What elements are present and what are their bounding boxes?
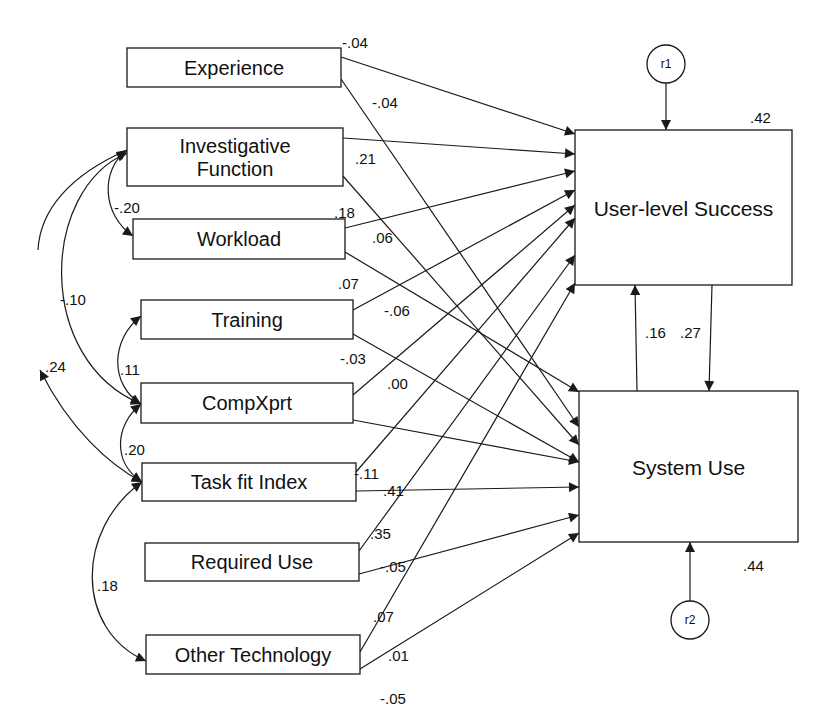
residual-label: r2: [685, 613, 696, 627]
covariance-arrows: [38, 150, 146, 661]
path-arrow: [353, 420, 579, 462]
outcome-label: User-level Success: [594, 197, 774, 220]
variable-label: Function: [197, 158, 274, 180]
path-arrow: [353, 190, 575, 310]
variable-label: CompXprt: [202, 392, 292, 414]
variable-box-othertech: Other Technology: [146, 635, 360, 674]
variable-label: Other Technology: [175, 644, 331, 666]
path-coefficient: -.03: [340, 350, 366, 367]
path-coefficient: .18: [334, 204, 355, 221]
path-arrow: [343, 138, 575, 154]
path-arrow: [356, 218, 575, 472]
path-coefficient: .06: [372, 229, 393, 246]
variable-label: Experience: [184, 57, 284, 79]
path-coefficient: -.05: [380, 690, 406, 707]
covariance-curve: [118, 316, 141, 404]
path-coefficient: .07: [338, 275, 359, 292]
variable-label: Investigative: [179, 135, 290, 157]
covariance-curve: [92, 482, 146, 661]
reciprocal-coefficient: .16: [645, 324, 666, 341]
path-arrow: [360, 283, 575, 652]
variable-box-requireduse: Required Use: [145, 543, 359, 581]
residual-label: r1: [661, 57, 672, 71]
variable-box-workload: Workload: [133, 219, 345, 259]
outcome-box-uls: User-level Success: [575, 130, 792, 285]
path-coefficient: -.04: [372, 94, 398, 111]
path-coefficient: -.11: [354, 465, 379, 482]
path-coefficient: .41: [383, 482, 404, 499]
path-coefficient: -.04: [342, 34, 368, 51]
path-coefficient: -.05: [380, 558, 406, 575]
outcome-label: System Use: [632, 456, 745, 479]
path-coefficient: .35: [370, 525, 391, 542]
path-arrow: [345, 252, 579, 392]
path-arrow: [343, 176, 579, 445]
variable-box-investigative: InvestigativeFunction: [127, 128, 343, 186]
path-arrow: [353, 334, 579, 462]
variable-box-training: Training: [141, 300, 353, 339]
variable-box-experience: Experience: [127, 48, 341, 87]
variable-label: Required Use: [191, 551, 313, 573]
path-coefficient: .21: [355, 150, 376, 167]
variable-label: Task fit Index: [191, 471, 308, 493]
r-squared-value: .42: [750, 109, 771, 126]
variable-box-compxprt: CompXprt: [141, 383, 353, 423]
covariance-curve: [40, 370, 142, 482]
residual-r2: r2: [671, 542, 709, 639]
reciprocal-arrow: [635, 285, 637, 391]
path-coefficient: .00: [387, 375, 408, 392]
variable-label: Training: [211, 309, 283, 331]
r-squared-value: .44: [743, 557, 764, 574]
covariance-coefficient: .18: [97, 577, 118, 594]
covariance-coefficient: -.10: [60, 291, 86, 308]
reciprocal-arrow: [709, 285, 712, 391]
covariance-coefficient: .24: [45, 358, 66, 375]
path-diagram: ExperienceInvestigativeFunctionWorkloadT…: [0, 0, 838, 714]
residual-r1: r1: [647, 45, 685, 130]
path-coefficient: .07: [373, 608, 394, 625]
covariance-coefficient: -.20: [114, 199, 140, 216]
path-coefficient: .01: [388, 647, 409, 664]
reciprocal-coefficient: .27: [680, 324, 701, 341]
covariance-coefficient: .11: [120, 361, 140, 378]
path-arrow: [345, 171, 575, 228]
path-coefficient: -.06: [384, 302, 410, 319]
variable-label: Workload: [197, 228, 281, 250]
covariance-coefficient: .20: [124, 441, 145, 458]
variable-boxes: ExperienceInvestigativeFunctionWorkloadT…: [127, 48, 798, 674]
variable-box-taskfit: Task fit Index: [142, 463, 356, 501]
outcome-box-su: System Use: [579, 391, 798, 542]
